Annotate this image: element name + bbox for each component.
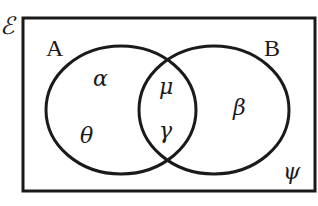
region-a-only-theta: θ [80,125,93,147]
set-b-circle [139,46,289,174]
region-intersection-mu: μ [159,76,173,98]
venn-diagram-canvas [0,0,318,206]
set-a-circle [46,46,196,174]
region-a-only-alpha: α [93,68,108,90]
set-a-label: A [46,36,63,60]
region-b-only-beta: β [233,97,246,119]
region-outside-psi: ψ [283,161,300,183]
region-intersection-gamma: γ [159,120,172,142]
universal-set-symbol: ℰ [0,14,15,38]
set-b-label: B [264,36,280,60]
